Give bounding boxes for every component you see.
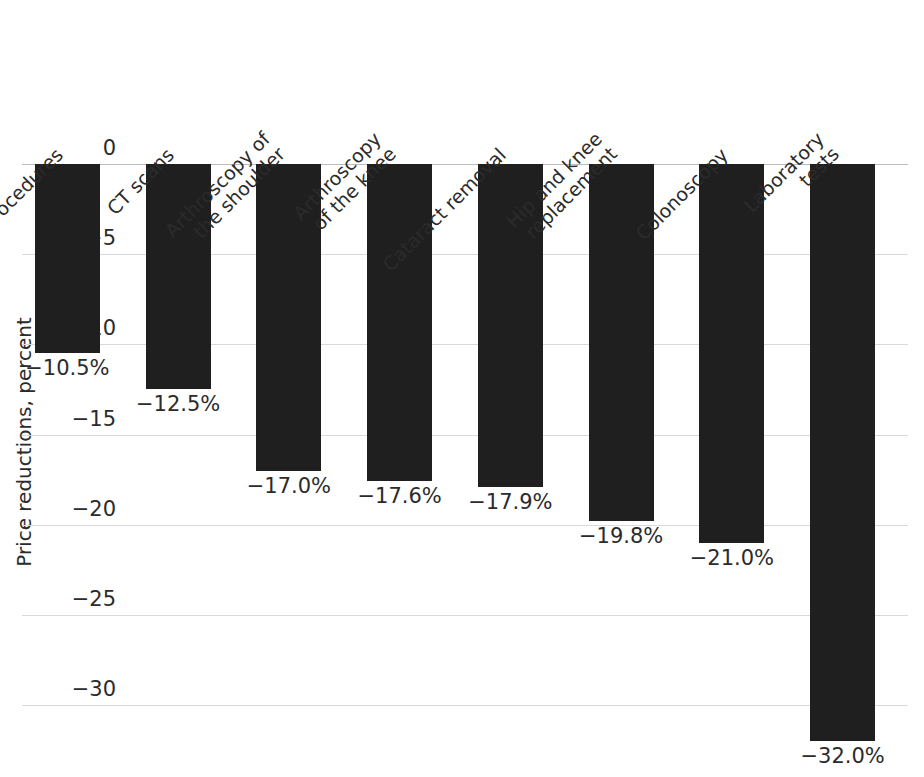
bar-value-label: −17.6% — [357, 484, 441, 508]
bar-value-label: −19.8% — [579, 524, 663, 548]
bar-chart: Price reductions, percent 0−5−10−15−20−2… — [0, 0, 924, 777]
plot-area: −10.5%−12.5%−17.0%−17.6%−17.9%−19.8%−21.… — [22, 0, 908, 777]
bar-value-label: −17.0% — [247, 474, 331, 498]
gridline — [22, 615, 908, 616]
gridline — [22, 525, 908, 526]
bar-value-label: −21.0% — [690, 546, 774, 570]
bar-value-label: −17.9% — [468, 490, 552, 514]
gridline — [22, 705, 908, 706]
bar-value-label: −12.5% — [136, 392, 220, 416]
bar-value-label: −32.0% — [800, 744, 884, 768]
gridline — [22, 435, 908, 436]
bar[interactable] — [810, 164, 875, 741]
